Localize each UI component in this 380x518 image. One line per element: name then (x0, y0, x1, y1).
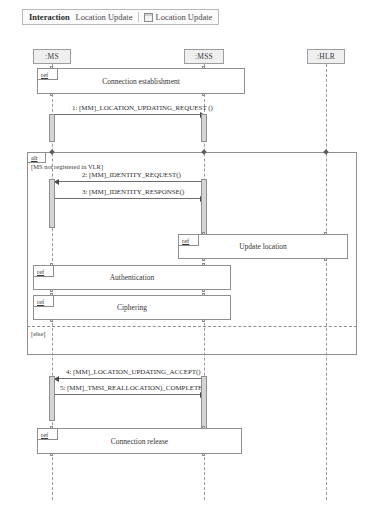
gate-dot-ms-ciph-bottom (50, 319, 53, 322)
gate-dot-ms-rel-top (50, 426, 53, 429)
message-arrow-2[interactable] (55, 181, 204, 182)
message-label-2: 2: [MM]_IDENTITY_REQUEST() (82, 171, 181, 179)
message-arrow-1[interactable] (52, 114, 204, 115)
ref-label-authentication: Authentication (34, 266, 230, 289)
activation-ms-1 (49, 114, 55, 142)
title-divider (138, 12, 139, 22)
ref-frame-connection-release[interactable]: ref Connection release (37, 428, 242, 454)
gate-dot-ms-rel-bottom (50, 453, 53, 456)
ref-frame-update-location[interactable]: ref Update location (178, 234, 348, 259)
sequence-diagram-canvas: Interaction Location Update Location Upd… (0, 0, 380, 518)
lifeline-head-ms[interactable]: :MS (33, 49, 71, 64)
fragment-operand-divider (27, 326, 357, 327)
gate-dot-hlr-ul-top (324, 232, 327, 235)
interaction-kind-label: Interaction (26, 10, 73, 24)
gate-dot-mss-auth-bottom (202, 289, 205, 292)
gate-dot-mss-top (202, 66, 205, 69)
activation-mss-1 (201, 114, 207, 142)
gate-dot-mss-auth-top (202, 263, 205, 266)
gate-dot-ms-bottom (50, 93, 53, 96)
gate-dot-ms-top (50, 66, 53, 69)
gate-dot-mss-rel-top (202, 426, 205, 429)
gate-dot-mss-rel-bottom (202, 453, 205, 456)
diagram-tab-label: Location Update (156, 13, 213, 22)
gate-dot-mss-bottom (202, 93, 205, 96)
gate-dot-mss-ciph-top (202, 293, 205, 296)
activation-ms-3 (49, 376, 55, 421)
gate-dot-ms-ciph-top (50, 293, 53, 296)
gate-dot-hlr-ul-bottom (324, 258, 327, 261)
activation-ms-2 (49, 179, 55, 228)
fragment-guard-second: [else] (31, 330, 45, 337)
message-arrow-5[interactable] (55, 394, 204, 395)
ref-label-connection-release: Connection release (38, 429, 241, 453)
gate-dot-ms-auth-top (50, 263, 53, 266)
lifeline-label-ms: :MS (45, 52, 59, 61)
diagram-icon (144, 13, 153, 22)
interaction-name-label: Location Update (73, 10, 136, 24)
lifeline-label-mss: :MSS (195, 52, 213, 61)
ref-label-update-location: Update location (179, 235, 347, 258)
ref-label-connection-establishment: Connection establishment (38, 69, 244, 93)
lifeline-head-mss[interactable]: :MSS (184, 49, 224, 64)
gate-dot-ms-auth-bottom (50, 289, 53, 292)
message-arrow-4[interactable] (55, 378, 204, 379)
fragment-operator-tag: alt (28, 153, 46, 163)
message-label-5: 5: [MM]_TMSI_REALLOCATION)_COMPLETE() (60, 384, 207, 392)
lifeline-head-hlr[interactable]: :HLR (307, 49, 345, 64)
message-arrow-3[interactable] (55, 198, 204, 199)
ref-frame-authentication[interactable]: ref Authentication (33, 265, 231, 290)
activation-mss-3 (201, 376, 207, 430)
message-label-4: 4: [MM]_LOCATION_UPDATING_ACCEPT() (66, 368, 201, 376)
gate-dot-mss-ciph-bottom (202, 319, 205, 322)
activation-mss-2 (201, 179, 207, 238)
gate-dot-mss-ul-bottom (202, 258, 205, 261)
message-label-1: 1: [MM]_LOCATION_UPDATING_REQUEST () (72, 104, 213, 112)
diagram-title-bar: Interaction Location Update Location Upd… (22, 9, 219, 25)
ref-frame-connection-establishment[interactable]: ref Connection establishment (37, 68, 245, 94)
gate-dot-mss-ul-top (202, 232, 205, 235)
fragment-guard-first: [MS not registered in VLR] (31, 163, 103, 170)
lifeline-label-hlr: :HLR (317, 52, 335, 61)
diagram-tab[interactable]: Location Update (141, 10, 216, 24)
ref-label-ciphering: Ciphering (34, 296, 230, 319)
message-label-3: 3: [MM]_IDENTITY_RESPONSE() (82, 188, 184, 196)
ref-frame-ciphering[interactable]: ref Ciphering (33, 295, 231, 320)
